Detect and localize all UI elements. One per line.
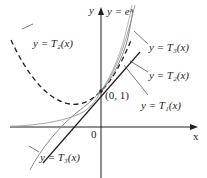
label-T3-bottom: y = T₃(x)	[40, 152, 80, 163]
x-axis-label: x	[193, 131, 199, 142]
y-axis-arrow-icon	[98, 7, 104, 15]
leader-T2-right	[130, 61, 148, 72]
taylor-polynomial-diagram: y x 0 (0, 1) y = eˣ y = T₂(x) y = T₃(x) …	[0, 0, 207, 178]
label-T1-right: y = T₁(x)	[141, 100, 181, 111]
leader-T3-bottom	[29, 146, 39, 152]
label-T2-left: y = T₂(x)	[33, 38, 73, 49]
label-T3-right: y = T₃(x)	[149, 42, 189, 53]
leader-T2-left	[22, 24, 33, 29]
origin-label: 0	[91, 129, 97, 140]
plot-canvas	[0, 0, 207, 178]
curve-T1	[43, 52, 140, 163]
leader-T3-right	[134, 31, 148, 44]
point-label: (0, 1)	[105, 90, 129, 101]
label-exp: y = eˣ	[107, 6, 133, 17]
y-axis-label: y	[89, 5, 94, 16]
curve-exp	[10, 5, 135, 126]
point-0-1	[99, 89, 103, 93]
label-T2-right: y = T₂(x)	[149, 70, 189, 81]
